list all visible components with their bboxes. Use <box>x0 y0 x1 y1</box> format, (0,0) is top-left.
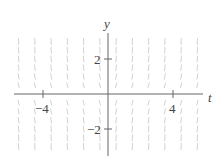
slope-segment <box>197 100 198 106</box>
slope-segment <box>67 64 68 71</box>
slope-segment <box>34 82 35 88</box>
slope-segment <box>35 126 36 133</box>
slope-segment <box>34 117 35 124</box>
slope-segment <box>83 126 84 133</box>
slope-segment <box>132 100 133 106</box>
slope-segment <box>197 117 198 124</box>
slope-segment <box>83 82 84 88</box>
slope-segment <box>116 64 117 71</box>
slope-segment <box>116 73 117 79</box>
slope-segment <box>164 108 165 114</box>
slope-segment <box>50 100 51 106</box>
slope-segment <box>67 56 68 63</box>
slope-segment <box>18 100 19 106</box>
slope-segment <box>181 56 182 63</box>
slope-segment <box>99 108 100 114</box>
slope-segment <box>148 100 149 106</box>
slope-segment <box>18 117 19 124</box>
slope-segment <box>115 82 116 88</box>
slope-segment <box>99 73 100 79</box>
slope-segment <box>132 56 133 63</box>
slope-segment <box>18 56 19 63</box>
slope-segment <box>18 73 19 79</box>
slope-segment <box>116 56 117 63</box>
slope-segment <box>115 100 116 106</box>
slope-segment <box>67 73 68 79</box>
slope-segment <box>148 73 149 79</box>
slope-segment <box>197 64 198 71</box>
slope-segment <box>18 126 19 133</box>
slope-segment <box>165 126 166 133</box>
slope-segment <box>180 82 181 88</box>
slope-segment <box>148 126 149 133</box>
slope-segment <box>35 56 36 63</box>
slope-segment <box>67 126 68 133</box>
slope-segment <box>116 126 117 133</box>
slope-segment <box>180 100 181 106</box>
slope-segment <box>51 56 52 63</box>
slope-segment <box>67 108 68 114</box>
slope-segment <box>99 82 100 88</box>
slope-segment <box>164 73 165 79</box>
slope-segment <box>132 82 133 88</box>
slope-segment <box>165 56 166 63</box>
slope-segment <box>34 64 35 71</box>
slope-segment <box>50 82 51 88</box>
slope-segment <box>132 126 133 133</box>
t-axis-label: t <box>208 91 212 104</box>
slope-segment <box>18 108 19 114</box>
slope-segment <box>116 117 117 124</box>
slope-segment <box>197 126 198 133</box>
slope-segment <box>83 108 84 114</box>
slope-segment <box>99 100 100 106</box>
y-tick-label-2: 2 <box>94 53 101 66</box>
slope-segment <box>67 117 68 124</box>
slope-segment <box>18 82 19 88</box>
slope-segment <box>197 56 198 63</box>
x-tick-label-4: 4 <box>169 102 176 115</box>
slope-segment <box>51 108 52 114</box>
slope-segment <box>132 108 133 114</box>
y-axis-label: y <box>104 17 110 30</box>
slope-segment <box>148 117 149 124</box>
slope-segment <box>51 117 52 124</box>
x-tick-label-neg4: −4 <box>35 102 49 115</box>
slope-segment <box>83 56 84 63</box>
slope-segment <box>51 126 52 133</box>
slope-segment <box>34 73 35 79</box>
plot-area <box>0 0 222 163</box>
slope-segment <box>132 73 133 79</box>
slope-segment <box>181 117 182 124</box>
slope-segment <box>148 82 149 88</box>
slope-segment <box>181 64 182 71</box>
slope-segment <box>197 108 198 114</box>
slope-segment <box>51 64 52 71</box>
slope-segment <box>197 82 198 88</box>
slope-segment <box>51 73 52 79</box>
slope-segment <box>132 117 133 124</box>
slope-segment <box>164 82 165 88</box>
slope-segment <box>148 108 149 114</box>
y-tick-label-neg2: −2 <box>87 123 101 136</box>
slope-segment <box>83 100 84 106</box>
slope-segment <box>83 64 84 71</box>
slope-segment <box>83 73 84 79</box>
slope-segment <box>181 126 182 133</box>
slope-segment <box>67 100 68 106</box>
slope-segment <box>164 64 165 71</box>
slope-segment <box>197 73 198 79</box>
slope-segment <box>164 100 165 106</box>
slope-segment <box>18 64 19 71</box>
slope-segment <box>148 64 149 71</box>
slope-segment <box>181 73 182 79</box>
slope-segment <box>132 64 133 71</box>
slope-segment <box>116 108 117 114</box>
slope-segment <box>181 108 182 114</box>
slope-segment <box>67 82 68 88</box>
slope-segment <box>83 117 84 124</box>
slope-segment <box>148 56 149 63</box>
slope-segment <box>164 117 165 124</box>
slope-field-chart: y t −4 4 2 −2 <box>0 0 222 163</box>
